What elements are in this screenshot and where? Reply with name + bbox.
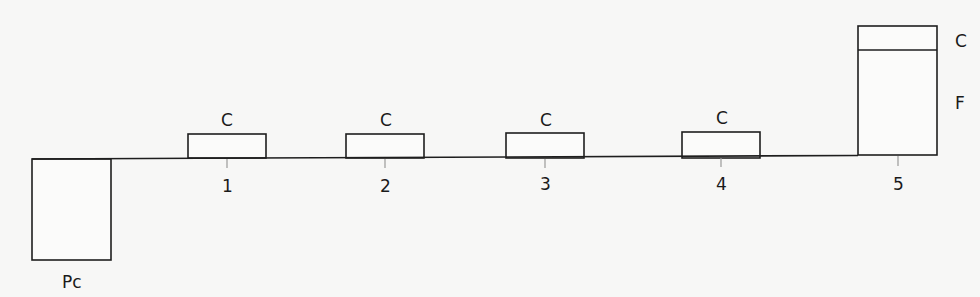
final-coupon-label: C <box>955 31 967 51</box>
coupon-box-2 <box>346 134 424 158</box>
initial-price-box <box>32 159 111 260</box>
period-label-3: 3 <box>540 174 551 194</box>
coupon-box-1 <box>188 134 266 158</box>
period-label-5: 5 <box>893 174 904 194</box>
coupon-box-4 <box>682 132 760 158</box>
coupon-label-1: C <box>221 110 233 130</box>
cash-flow-diagram: Pc C 1 C 2 C 3 C 4 C F 5 <box>0 0 980 297</box>
period-label-1: 1 <box>222 176 233 196</box>
coupon-box-3 <box>506 133 584 158</box>
final-payment-box <box>858 26 937 155</box>
coupon-label-3: C <box>540 110 552 130</box>
initial-price-label: Pc <box>62 272 82 292</box>
period-label-2: 2 <box>380 176 391 196</box>
period-label-4: 4 <box>716 174 727 194</box>
face-value-label: F <box>955 93 965 113</box>
coupon-label-4: C <box>716 108 728 128</box>
coupon-label-2: C <box>380 110 392 130</box>
